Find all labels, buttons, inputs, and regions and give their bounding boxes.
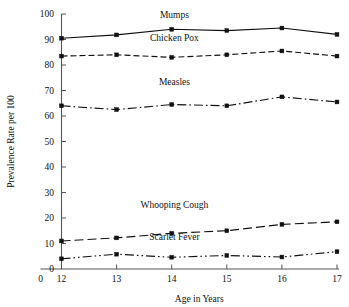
y-tick-label: 10 [45, 239, 55, 249]
series-line [62, 28, 338, 38]
y-tick-label: 60 [45, 111, 55, 121]
data-point-marker [60, 104, 64, 108]
series-line [62, 97, 338, 110]
y-tick-label: 90 [45, 35, 55, 45]
data-point-marker [115, 53, 119, 57]
y-tick-label: 30 [45, 188, 55, 198]
series-label: Measles [159, 77, 190, 87]
series-label: Chicken Pox [150, 33, 199, 43]
series-mumps: Mumps [60, 10, 339, 40]
data-point-marker [335, 250, 339, 254]
data-point-marker [60, 54, 64, 58]
data-point-marker [60, 36, 64, 40]
y-tick-label: 20 [45, 213, 55, 223]
data-point-marker [60, 257, 64, 261]
data-point-marker [225, 53, 229, 57]
data-point-marker [115, 108, 119, 112]
series-line [62, 51, 338, 57]
series-scarlet-fever: Scarlet Fever [60, 232, 339, 261]
data-point-marker [225, 104, 229, 108]
data-point-marker [115, 236, 119, 240]
data-point-marker [280, 255, 284, 259]
y-tick-label: 50 [45, 137, 55, 147]
data-point-marker [115, 33, 119, 37]
data-point-marker [225, 254, 229, 258]
data-point-marker [225, 29, 229, 33]
series-measles: Measles [60, 77, 339, 111]
x-tick-label: 12 [57, 274, 67, 284]
x-tick-label: 15 [222, 274, 232, 284]
data-point-marker [335, 220, 339, 224]
x-tick-label: 13 [112, 274, 122, 284]
data-point-marker [60, 239, 64, 243]
data-point-marker [335, 54, 339, 58]
y-axis-title: Prevalence Rate per 100 [6, 95, 16, 188]
series-chicken-pox: Chicken Pox [60, 33, 339, 59]
series-label: Mumps [160, 10, 189, 20]
x-axis-title: Age in Years [175, 294, 224, 304]
y-tick-label: 40 [45, 162, 55, 172]
data-point-marker [280, 49, 284, 53]
data-point-marker [335, 100, 339, 104]
data-point-marker [170, 27, 174, 31]
data-point-marker [280, 26, 284, 30]
series-label: Scarlet Fever [149, 232, 200, 242]
y-tick-label: 70 [45, 86, 55, 96]
data-point-marker [170, 255, 174, 259]
x-axis-origin-label: 0 [38, 274, 43, 284]
data-point-marker [280, 222, 284, 226]
data-point-marker [115, 252, 119, 256]
y-tick-label: 80 [45, 60, 55, 70]
series-label: Whooping Cough [141, 200, 209, 210]
data-point-marker [335, 33, 339, 37]
line-chart: 01020304050607080901001213141516170Age i… [0, 0, 349, 307]
data-point-marker [170, 55, 174, 59]
x-tick-label: 16 [277, 274, 287, 284]
x-tick-label: 14 [167, 274, 177, 284]
chart-figure: 01020304050607080901001213141516170Age i… [0, 0, 349, 307]
y-tick-label: 0 [49, 264, 54, 274]
x-tick-label: 17 [332, 274, 342, 284]
data-point-marker [170, 103, 174, 107]
y-tick-label: 100 [40, 9, 55, 19]
data-point-marker [280, 95, 284, 99]
data-point-marker [225, 229, 229, 233]
series-line [62, 252, 338, 259]
